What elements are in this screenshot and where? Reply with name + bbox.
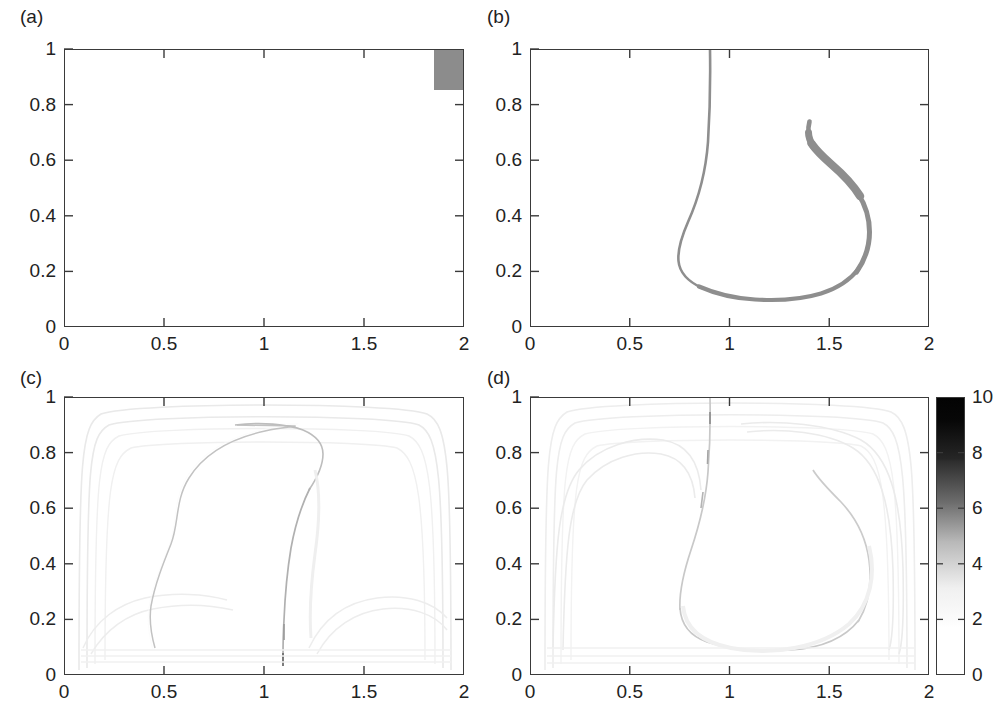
panel-b-xtick-4: 2 bbox=[924, 333, 935, 355]
panel-b-xtick-0: 0 bbox=[525, 333, 536, 355]
figure-root: (a) 0 bbox=[0, 0, 998, 725]
colorbar-ticks bbox=[499, 363, 998, 725]
panel-c-xtick-1: 0.5 bbox=[151, 681, 177, 703]
panel-b-ytick-4: 0.8 bbox=[480, 94, 522, 116]
colorbar-tick-6: 6 bbox=[972, 497, 983, 519]
panel-b-xtick-2: 1 bbox=[724, 333, 735, 355]
panel-b-xtick-1: 0.5 bbox=[617, 333, 643, 355]
panel-c: (c) bbox=[0, 363, 499, 725]
panel-a-ytick-3: 0.6 bbox=[14, 149, 56, 171]
panel-a-axes bbox=[0, 0, 499, 363]
panel-c-xtick-2: 1 bbox=[259, 681, 270, 703]
panel-c-ytick-1: 0.2 bbox=[14, 608, 56, 630]
panel-a-xtick-1: 0.5 bbox=[151, 333, 177, 355]
panel-b-ytick-3: 0.6 bbox=[480, 149, 522, 171]
panel-a-ytick-5: 1 bbox=[14, 38, 56, 60]
panel-b-xtick-3: 1.5 bbox=[816, 333, 842, 355]
colorbar-tick-8: 8 bbox=[972, 442, 983, 464]
panel-c-axes bbox=[0, 363, 499, 725]
panel-a-ytick-4: 0.8 bbox=[14, 94, 56, 116]
panel-b: (b) bbox=[499, 0, 998, 363]
panel-c-xtick-0: 0 bbox=[59, 681, 70, 703]
panel-b-axes bbox=[499, 0, 998, 363]
panel-b-ytick-2: 0.4 bbox=[480, 205, 522, 227]
colorbar-tick-2: 2 bbox=[972, 608, 983, 630]
panel-a-ytick-1: 0.2 bbox=[14, 260, 56, 282]
panel-a: (a) 0 bbox=[0, 0, 499, 363]
panel-a-ytick-0: 0 bbox=[14, 316, 56, 338]
panel-c-xtick-3: 1.5 bbox=[351, 681, 377, 703]
panel-c-xtick-4: 2 bbox=[459, 681, 470, 703]
panel-c-ytick-0: 0 bbox=[14, 664, 56, 686]
panel-b-ytick-5: 1 bbox=[480, 38, 522, 60]
panel-a-xtick-2: 1 bbox=[259, 333, 270, 355]
colorbar-tick-0: 0 bbox=[972, 664, 983, 686]
colorbar-tick-10: 10 bbox=[972, 386, 993, 408]
panel-c-ytick-3: 0.6 bbox=[14, 497, 56, 519]
panel-c-ytick-4: 0.8 bbox=[14, 442, 56, 464]
panel-c-ytick-5: 1 bbox=[14, 386, 56, 408]
panel-a-ytick-2: 0.4 bbox=[14, 205, 56, 227]
panel-a-xtick-3: 1.5 bbox=[351, 333, 377, 355]
panel-a-xtick-4: 2 bbox=[459, 333, 470, 355]
panel-c-ytick-2: 0.4 bbox=[14, 553, 56, 575]
panel-d: (d) bbox=[499, 363, 998, 725]
panel-b-ytick-0: 0 bbox=[480, 316, 522, 338]
panel-b-ytick-1: 0.2 bbox=[480, 260, 522, 282]
colorbar-tick-4: 4 bbox=[972, 553, 983, 575]
panel-a-xtick-0: 0 bbox=[59, 333, 70, 355]
